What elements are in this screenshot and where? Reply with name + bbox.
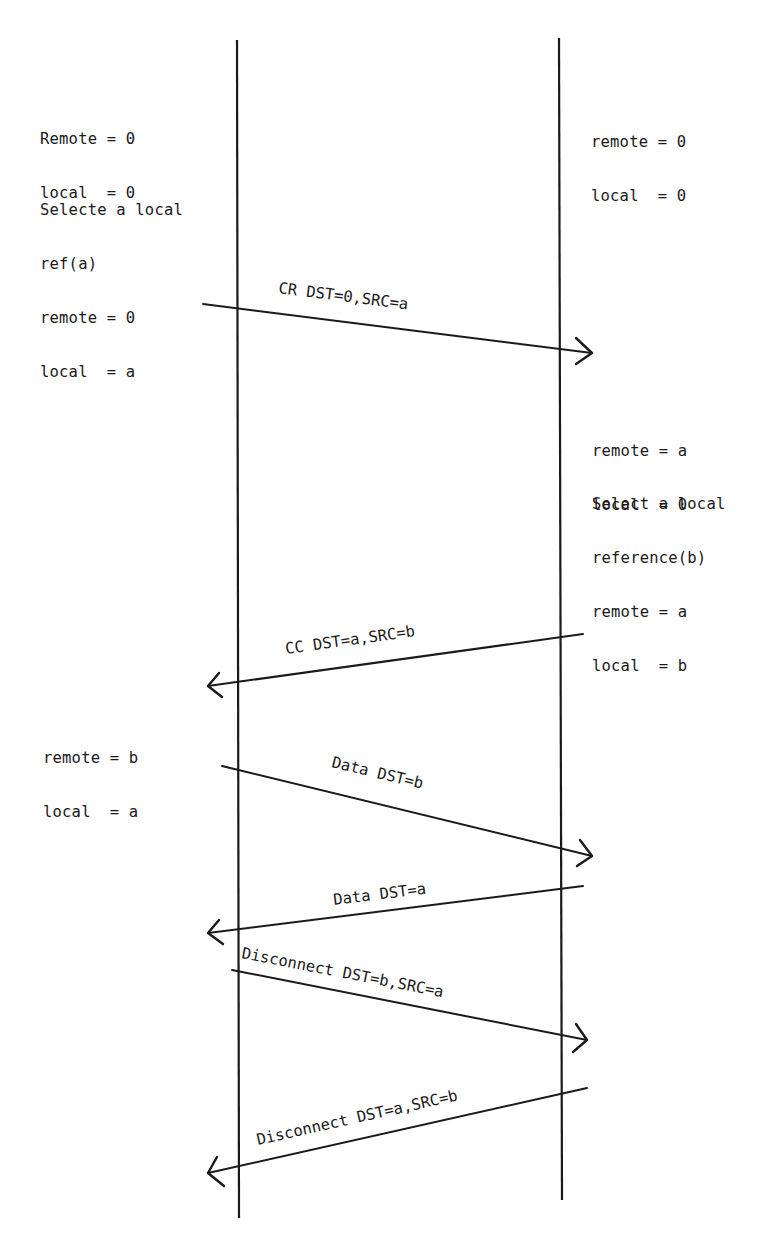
- message-cc: CC DST=a,SRC=b: [208, 622, 583, 697]
- message-label: Data DST=b: [330, 753, 425, 792]
- note-line: remote = a: [592, 442, 687, 460]
- message-label: Data DST=a: [332, 880, 427, 909]
- message-disconnect-to-right: Disconnect DST=b,SRC=a: [232, 944, 587, 1052]
- sequence-diagram: CR DST=0,SRC=a CC DST=a,SRC=b Data DST=b…: [0, 0, 784, 1249]
- note-line: local = a: [40, 363, 183, 381]
- message-data-to-left: Data DST=a: [208, 880, 583, 944]
- message-label: CC DST=a,SRC=b: [284, 622, 416, 658]
- note-line: remote = 0: [591, 133, 686, 151]
- left-after-cc-note: remote = b local = a: [43, 713, 138, 857]
- right-initial-state-note: remote = 0 local = 0: [591, 97, 686, 241]
- message-disconnect-to-left: Disconnect DST=a,SRC=b: [208, 1087, 587, 1186]
- left-select-reference-note: Selecte a local ref(a) remote = 0 local …: [40, 165, 183, 417]
- message-data-to-right: Data DST=b: [222, 753, 592, 866]
- note-line: local = 0: [591, 187, 686, 205]
- left-lifeline: [237, 40, 239, 1218]
- right-lifeline: [559, 38, 562, 1200]
- message-cr: CR DST=0,SRC=a: [203, 279, 592, 364]
- note-line: remote = b: [43, 749, 138, 767]
- note-line: Selecte a local: [40, 201, 183, 219]
- note-line: Remote = 0: [40, 130, 135, 148]
- note-line: remote = a: [592, 603, 725, 621]
- note-line: ref(a): [40, 255, 183, 273]
- note-line: remote = 0: [40, 309, 183, 327]
- note-line: reference(b): [592, 549, 725, 567]
- note-line: Select a local: [592, 495, 725, 513]
- note-line: local = a: [43, 803, 138, 821]
- message-label: CR DST=0,SRC=a: [277, 279, 409, 313]
- right-select-reference-note: Select a local reference(b) remote = a l…: [592, 459, 725, 711]
- note-line: local = b: [592, 657, 725, 675]
